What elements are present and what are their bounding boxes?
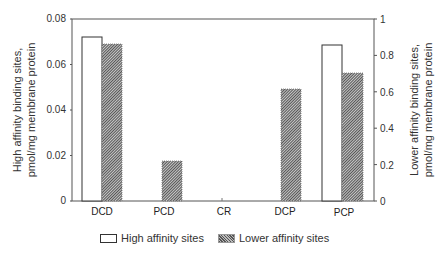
right-axis-title-line2: pmol/mg membrane protein (422, 43, 434, 178)
bar-dcp-low (281, 89, 301, 201)
category-label-dcd: DCD (91, 206, 113, 217)
legend-swatch-low (218, 234, 235, 243)
right-tick-4: 0.8 (380, 50, 394, 61)
category-label-dcp: DCP (274, 206, 295, 217)
legend-label-high: High affinity sites (121, 232, 204, 244)
category-label-pcd: PCD (153, 206, 174, 217)
category-label-cr: CR (217, 206, 231, 217)
right-axis: 0 0.2 0.4 0.6 0.8 1 (374, 14, 394, 207)
left-tick-0: 0 (60, 195, 66, 206)
left-axis-title-line2: pmol/mg membrane protein (25, 43, 37, 178)
right-tick-0: 0 (380, 196, 386, 207)
left-tick-3: 0.06 (47, 59, 67, 70)
chart-svg: 0 0.02 0.04 0.06 0.08 0 0.2 0.4 0.6 0.8 … (0, 0, 441, 255)
left-tick-2: 0.04 (47, 104, 67, 115)
legend-label-low: Lower affinity sites (239, 232, 329, 244)
bar-dcd-high (82, 37, 102, 201)
left-axis-title-line1: High affinity binding sites, (11, 48, 23, 173)
left-axis: 0 0.02 0.04 0.06 0.08 (47, 13, 72, 206)
legend-swatch-high (100, 234, 117, 243)
right-tick-3: 0.6 (380, 87, 394, 98)
bar-pcp-low (342, 73, 363, 201)
left-tick-4: 0.08 (47, 13, 67, 24)
right-tick-5: 1 (380, 14, 386, 25)
legend-item-high: High affinity sites (100, 232, 204, 244)
bar-pcp-high (322, 45, 342, 201)
bar-dcd-low (102, 44, 122, 201)
bar-pcd-low (162, 161, 182, 201)
right-tick-1: 0.2 (380, 160, 394, 171)
right-axis-title-line1: Lower affinity binding sites, (408, 44, 420, 176)
legend-item-low: Lower affinity sites (218, 232, 329, 244)
legend: High affinity sites Lower affinity sites (100, 232, 339, 244)
category-label-pcp: PCP (334, 207, 355, 218)
right-tick-2: 0.4 (380, 123, 394, 134)
left-tick-1: 0.02 (47, 150, 67, 161)
